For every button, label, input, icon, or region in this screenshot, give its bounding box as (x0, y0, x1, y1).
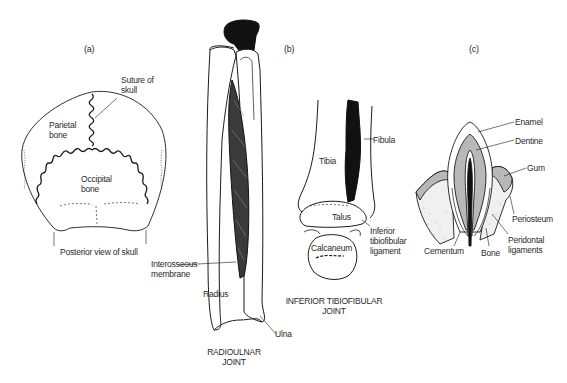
forearm-bones-drawing (178, 20, 276, 334)
label-line: Occipital (81, 174, 112, 184)
caption-posterior-view: Posterior view of skull (60, 247, 138, 257)
panel-label-c: (c) (469, 44, 479, 54)
label-line: bone (49, 130, 76, 140)
label-line: skull (121, 85, 154, 95)
label-gum: Gum (527, 163, 545, 173)
label-occipital-bone: Occipital bone (81, 174, 112, 194)
skull-posterior-drawing (22, 91, 166, 246)
panel-label-b: (b) (284, 44, 294, 54)
label-line: tibiofibular (370, 236, 406, 246)
label-periosteum: Periosteum (512, 214, 553, 224)
label-inferior-tibiofibular-ligament: Inferior tibiofibular ligament (370, 226, 406, 256)
label-line: Inferior (370, 226, 406, 236)
caption-inferior-tibiofibular-joint: INFERIOR TIBIOFIBULAR JOINT (284, 296, 384, 316)
label-tibia: Tibia (319, 156, 336, 166)
tooth-drawing (416, 122, 526, 246)
caption-line: INFERIOR TIBIOFIBULAR (284, 296, 384, 306)
label-peridontal-ligaments: Peridontal ligaments (508, 235, 544, 255)
panel-label-a: (a) (84, 44, 94, 54)
label-enamel: Enamel (515, 117, 543, 127)
label-bone: Bone (481, 248, 500, 258)
label-fibula: Fibula (373, 135, 395, 145)
label-line: Parietal (49, 120, 76, 130)
label-line: Suture of (121, 75, 154, 85)
caption-line: JOINT (284, 306, 384, 316)
label-line: Peridontal (508, 235, 544, 245)
label-line: ligaments (508, 245, 544, 255)
label-ulna: Ulna (275, 329, 292, 339)
label-suture-of-skull: Suture of skull (121, 75, 154, 95)
label-cementum: Cementum (424, 246, 464, 256)
label-line: membrane (151, 269, 197, 279)
label-line: ligament (370, 246, 406, 256)
caption-radioulnar-joint: RADIOULNAR JOINT (204, 347, 264, 367)
label-dentine: Dentine (515, 136, 543, 146)
label-line: bone (81, 184, 112, 194)
caption-line: JOINT (204, 357, 264, 367)
label-parietal-bone: Parietal bone (49, 120, 76, 140)
label-talus: Talus (332, 212, 351, 222)
label-line: Interosseous (151, 259, 197, 269)
caption-line: RADIOULNAR (204, 347, 264, 357)
label-radius: Radius (203, 289, 228, 299)
label-calcaneum: Calcaneum (311, 243, 352, 253)
label-interosseous-membrane: Interosseous membrane (151, 259, 197, 279)
